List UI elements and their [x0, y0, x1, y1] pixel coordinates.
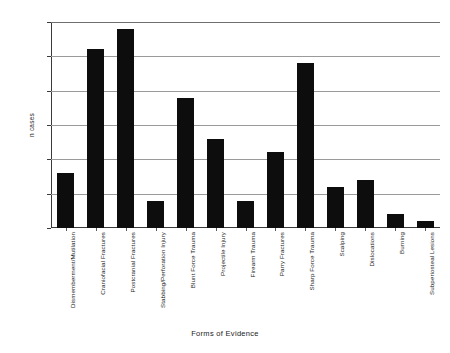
- bar[interactable]: [357, 180, 374, 228]
- x-category-label: Subperiosteal Lesions: [428, 232, 435, 295]
- x-category-label: Dismemberment/Mutilation: [69, 232, 76, 308]
- x-category-label: Stabbing/Perforation Injury: [159, 232, 166, 308]
- plot-area: 051015202530: [51, 22, 440, 228]
- x-tick-mark: [216, 228, 217, 231]
- bar[interactable]: [267, 152, 284, 228]
- bar[interactable]: [207, 139, 224, 228]
- x-category-label: Blunt Force Trauma: [189, 232, 196, 288]
- x-category-label: Sharp Force Trauma: [308, 232, 315, 291]
- x-tick-mark: [246, 228, 247, 231]
- x-category-label: Parry Fractures: [278, 232, 285, 276]
- bar[interactable]: [327, 187, 344, 228]
- x-category-label: Scalping: [338, 232, 345, 257]
- bar[interactable]: [87, 49, 104, 228]
- x-tick-mark: [335, 228, 336, 231]
- y-axis-title: n cases: [28, 90, 35, 160]
- bar[interactable]: [387, 214, 404, 228]
- x-category-label: Craniofacial Fractures: [99, 232, 106, 295]
- y-tick-mark: [47, 228, 51, 229]
- x-category-label: Postcranial Fractures: [129, 232, 136, 293]
- x-tick-mark: [96, 228, 97, 231]
- bar[interactable]: [417, 221, 434, 228]
- x-tick-mark: [365, 228, 366, 231]
- x-tick-mark: [395, 228, 396, 231]
- bar[interactable]: [297, 63, 314, 228]
- bars-group: [51, 22, 440, 228]
- x-tick-mark: [66, 228, 67, 231]
- x-category-labels: Dismemberment/MutilationCraniofacial Fra…: [51, 232, 440, 324]
- x-category-label: Firearm Trauma: [249, 232, 256, 277]
- x-tick-mark: [126, 228, 127, 231]
- bar[interactable]: [57, 173, 74, 228]
- bar[interactable]: [147, 201, 164, 228]
- x-tick-mark: [275, 228, 276, 231]
- x-category-label: Projectile Injury: [219, 232, 226, 276]
- x-tick-mark: [425, 228, 426, 231]
- bar[interactable]: [117, 29, 134, 228]
- x-category-label: Burning: [398, 232, 405, 254]
- bar-chart-figure: n cases 051015202530 Dismemberment/Mutil…: [0, 0, 450, 353]
- x-axis-title: Forms of Evidence: [0, 329, 450, 338]
- x-category-label: Dislocations: [368, 232, 375, 267]
- x-tick-mark: [305, 228, 306, 231]
- bar[interactable]: [177, 98, 194, 228]
- x-tick-mark: [156, 228, 157, 231]
- bar[interactable]: [237, 201, 254, 228]
- x-tick-mark: [186, 228, 187, 231]
